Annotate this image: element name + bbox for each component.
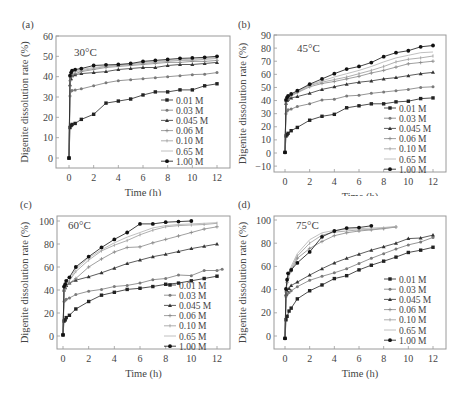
y-tick-label: 80 <box>261 238 271 249</box>
data-point-marker <box>179 74 182 77</box>
data-point-marker <box>320 235 324 239</box>
legend-label: 0.03 M <box>179 291 207 301</box>
data-point-marker <box>73 122 76 125</box>
y-tick-label: 40 <box>261 284 271 295</box>
data-point-marker <box>333 234 337 238</box>
legend-label: 1.00 M <box>176 157 204 167</box>
panel-label: (d) <box>238 199 251 211</box>
panel-c: 020406080100024681012Time (h)Digenite di… <box>0 196 232 393</box>
data-point-marker <box>215 275 218 278</box>
legend-marker <box>388 137 392 141</box>
chart-a: 0102030405060024681012Time (h)Digenite d… <box>0 0 232 196</box>
legend-marker <box>389 288 392 291</box>
data-point-marker <box>296 285 299 288</box>
legend-label: 0.01 M <box>399 104 427 114</box>
data-point-marker <box>345 226 349 230</box>
data-point-marker <box>177 220 181 224</box>
legend-label: 0.65 M <box>176 147 204 157</box>
data-point-marker <box>61 333 65 337</box>
data-point-marker <box>129 62 133 66</box>
data-point-marker <box>166 75 169 78</box>
panel-a: 0102030405060024681012Time (h)Digenite d… <box>0 0 232 196</box>
data-point-marker <box>151 278 154 281</box>
x-tick-label: 12 <box>428 176 438 187</box>
data-point-marker <box>432 85 435 88</box>
y-tick-label: 90 <box>261 30 271 41</box>
data-point-marker <box>138 287 141 290</box>
data-point-marker <box>407 88 410 91</box>
legend-marker <box>388 277 391 280</box>
data-point-marker <box>74 265 78 269</box>
data-point-marker <box>189 219 193 223</box>
data-point-marker <box>333 113 336 116</box>
data-point-marker <box>419 45 423 49</box>
data-point-marker <box>70 123 73 126</box>
x-tick-label: 0 <box>67 172 72 183</box>
y-tick-label: 50 <box>43 51 53 62</box>
legend-label: 0.06 M <box>179 311 207 321</box>
temperature-annotation: 60°C <box>68 219 91 231</box>
data-point-marker <box>332 72 336 76</box>
x-tick-label: 12 <box>428 353 438 364</box>
legend-label: 1.00 M <box>179 342 207 352</box>
data-point-marker <box>203 55 207 59</box>
legend-marker <box>165 98 168 101</box>
data-point-marker <box>125 231 129 235</box>
data-point-marker <box>286 271 290 275</box>
legend-label: 0.01 M <box>399 275 427 285</box>
data-point-marker <box>382 55 386 59</box>
y-tick-label: 40 <box>261 95 271 106</box>
temperature-annotation: 75°C <box>296 219 319 231</box>
legend-label: 0.10 M <box>176 136 204 146</box>
x-tick-label: 10 <box>403 353 413 364</box>
data-point-marker <box>100 288 103 291</box>
data-point-marker <box>92 84 95 87</box>
data-point-marker <box>431 59 435 63</box>
data-point-marker <box>151 222 155 226</box>
data-point-marker <box>126 284 129 287</box>
data-point-marker <box>289 129 292 132</box>
data-point-marker <box>290 108 293 111</box>
data-point-marker <box>178 56 182 60</box>
data-point-marker <box>164 277 167 280</box>
series-line <box>285 227 396 338</box>
y-tick-label: 70 <box>261 56 271 67</box>
data-point-marker <box>65 298 68 301</box>
data-point-marker <box>382 69 386 73</box>
data-point-marker <box>74 293 77 296</box>
data-point-marker <box>203 269 206 272</box>
y-tick-label: 60 <box>261 261 271 272</box>
x-tick-label: 4 <box>332 176 337 187</box>
data-point-marker <box>125 288 128 291</box>
y-tick-label: 80 <box>44 239 54 250</box>
legend-label: 0.03 M <box>399 285 427 295</box>
legend-label: 0.06 M <box>399 134 427 144</box>
data-point-marker <box>287 309 290 312</box>
data-point-marker <box>283 150 287 154</box>
x-tick-label: 10 <box>186 353 196 364</box>
y-axis-title: Digenite dissolution rate (%) <box>19 41 31 163</box>
data-point-marker <box>308 119 311 122</box>
data-point-marker <box>215 242 219 246</box>
y-tick-label: 10 <box>43 132 53 143</box>
y-axis-title: Digenite dissolution rate (%) <box>237 42 249 164</box>
data-point-marker <box>333 277 336 280</box>
y-tick-label: 30 <box>43 92 53 103</box>
data-point-marker <box>308 82 312 86</box>
x-tick-label: 0 <box>61 353 66 364</box>
data-point-marker <box>153 59 157 63</box>
data-point-marker <box>64 279 68 283</box>
data-point-marker <box>74 88 77 91</box>
y-tick-label: 60 <box>261 69 271 80</box>
data-point-marker <box>113 250 117 254</box>
data-point-marker <box>395 89 398 92</box>
data-point-marker <box>164 238 168 242</box>
data-point-marker <box>203 73 206 76</box>
legend-label: 1.00 M <box>399 336 427 346</box>
data-point-marker <box>358 94 361 97</box>
data-point-marker <box>74 307 77 310</box>
data-point-marker <box>308 102 311 105</box>
data-point-marker <box>138 222 142 226</box>
data-point-marker <box>296 126 299 129</box>
legend: 0.01 M0.03 M0.045 M0.06 M0.10 M0.65 M1.0… <box>161 96 209 167</box>
